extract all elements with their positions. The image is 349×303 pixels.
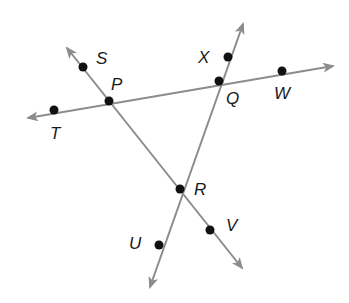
line-XU <box>150 24 243 287</box>
point-q <box>215 77 224 86</box>
point-t <box>50 106 59 115</box>
point-label-x: X <box>197 48 210 67</box>
point-r <box>176 185 185 194</box>
point-label-t: T <box>50 124 62 143</box>
point-label-u: U <box>129 234 142 253</box>
point-label-r: R <box>194 180 206 199</box>
point-label-q: Q <box>226 89 239 108</box>
point-p <box>105 97 114 106</box>
point-label-w: W <box>274 84 292 103</box>
point-u <box>155 241 164 250</box>
points-layer <box>50 53 287 250</box>
lines-layer <box>28 24 333 287</box>
point-s <box>79 63 88 72</box>
point-v <box>206 226 215 235</box>
point-label-s: S <box>96 49 108 68</box>
geometry-diagram: SPTXQWRUV <box>0 0 349 303</box>
point-x <box>224 53 233 62</box>
point-label-v: V <box>226 216 239 235</box>
point-label-p: P <box>111 75 123 94</box>
point-w <box>278 67 287 76</box>
